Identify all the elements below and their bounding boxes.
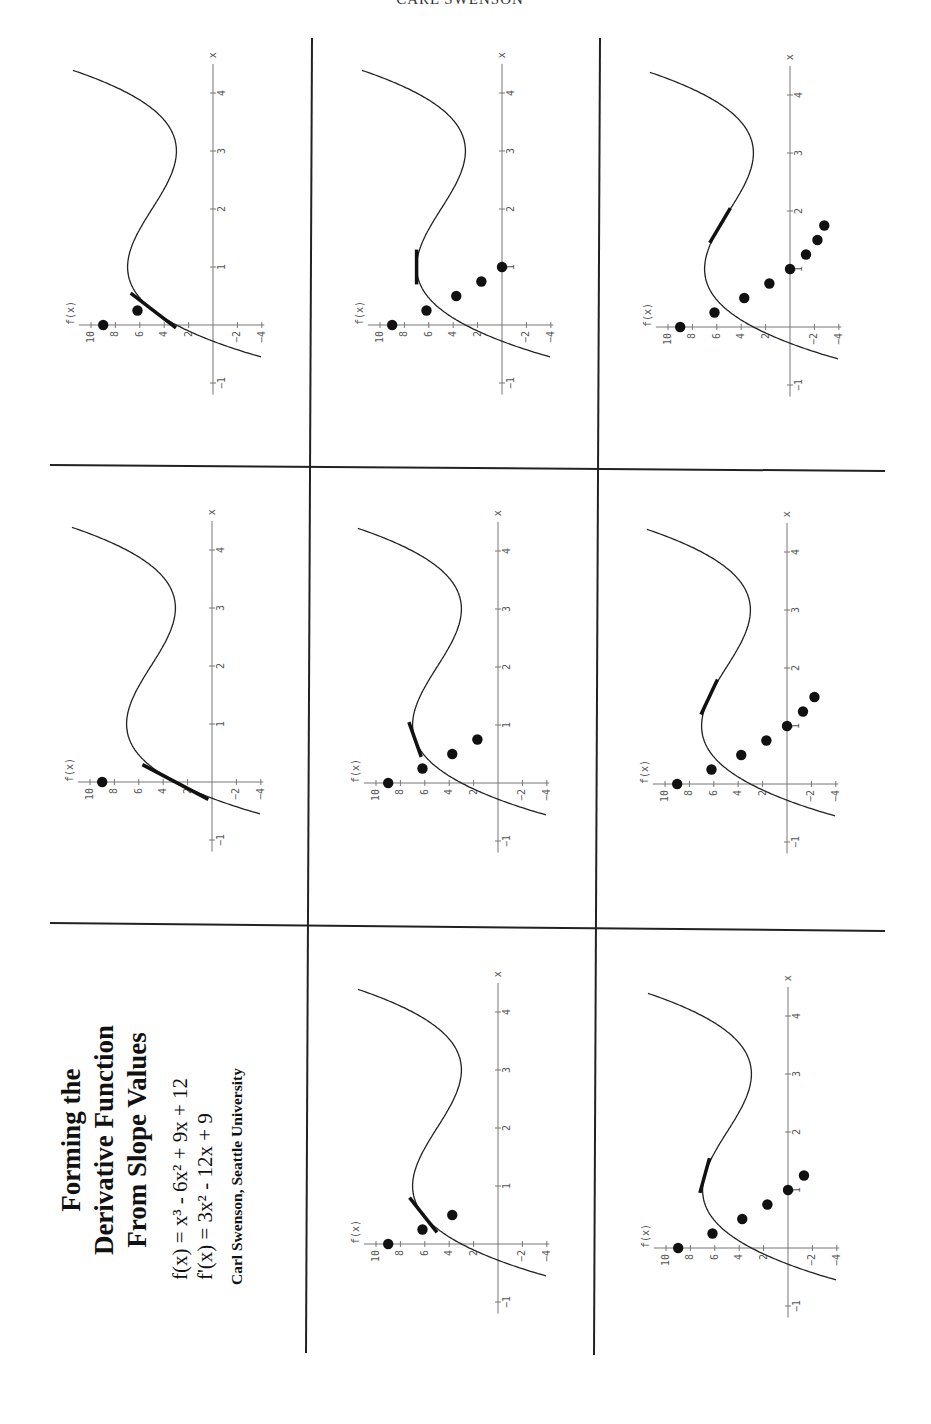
svg-text:−2: −2 [806,1254,817,1266]
svg-text:8: 8 [686,333,697,339]
svg-text:−2: −2 [516,1250,527,1262]
svg-text:4: 4 [443,1250,454,1256]
tick-labels: −11234108642−2−4xf(x) [639,511,840,848]
slope-dots [387,262,507,330]
svg-text:8: 8 [684,1254,695,1260]
slope-dot [785,264,795,274]
svg-text:−2: −2 [520,331,531,343]
slope-dot [801,249,811,259]
slope-dot [709,307,719,317]
y-axis-label: f(x) [350,759,361,783]
svg-text:1: 1 [215,721,226,727]
slope-dot [737,1214,747,1224]
svg-text:4: 4 [791,1013,802,1019]
slope-dot [383,1239,393,1249]
axes [364,522,549,853]
slope-dot [809,692,819,702]
svg-text:6: 6 [711,333,722,339]
svg-text:3: 3 [505,148,516,154]
svg-text:3: 3 [216,148,227,154]
svg-text:2: 2 [501,664,512,670]
page: CARL SWENSON −11234108642−2−4xf(x)−11234… [0,0,931,1424]
plot-panel-step-8: −11234108642−2−4xf(x) [642,54,843,396]
svg-text:4: 4 [732,790,743,796]
svg-text:−1: −1 [216,377,227,389]
svg-text:4: 4 [501,1009,512,1015]
svg-text:−2: −2 [230,788,241,800]
tangent-segment [409,722,421,757]
slope-dot [799,1170,809,1180]
plot-panel-step-3: −11234108642−2−4xf(x) [350,971,551,1313]
slope-dot [447,1210,457,1220]
svg-text:10: 10 [370,1250,381,1262]
svg-text:−4: −4 [831,1254,842,1266]
svg-text:4: 4 [501,548,512,554]
svg-text:8: 8 [394,789,405,795]
svg-text:10: 10 [85,331,96,343]
svg-text:8: 8 [108,788,119,794]
y-axis-label: f(x) [65,301,76,325]
svg-text:4: 4 [215,547,226,553]
svg-text:−1: −1 [215,834,226,846]
tangent-segment [701,680,717,715]
plot-panel-step-5: −11234108642−2−4xf(x) [354,52,555,394]
plot-panel-step-6: −11234108642−2−4xf(x) [640,975,841,1317]
slope-dot [706,764,716,774]
plot-panel-step-1: −11234108642−2−4xf(x) [64,509,265,851]
slope-dot [761,735,771,745]
svg-text:6: 6 [708,790,719,796]
slope-dot [782,721,792,731]
svg-text:10: 10 [660,1254,671,1266]
svg-text:−1: −1 [501,835,512,847]
y-axis-label: f(x) [639,760,650,784]
slope-dot [739,293,749,303]
function-curve [72,527,260,814]
title-block: Forming the Derivative Function From Slo… [55,905,305,1375]
slope-dots [98,305,143,330]
svg-text:8: 8 [683,790,694,796]
slope-dots [383,1210,457,1249]
fprime-equation: f'(x) = 3x² - 12x + 9 [193,905,218,1375]
slope-dot [421,305,431,315]
title-line-2: Derivative Function [88,905,121,1375]
svg-text:8: 8 [398,331,409,337]
function-curve [362,70,550,357]
svg-text:3: 3 [501,606,512,612]
x-axis-label: x [492,510,503,516]
svg-text:−1: −1 [793,379,804,391]
slope-dot [762,1199,772,1209]
svg-text:4: 4 [443,789,454,795]
y-axis-label: f(x) [354,301,365,325]
function-curve [647,529,835,816]
x-axis-label: x [206,509,217,515]
svg-text:2: 2 [216,206,227,212]
svg-text:3: 3 [791,1071,802,1077]
f-equation: f(x) = x³ - 6x² + 9x + 12 [168,905,193,1375]
svg-text:2: 2 [790,665,801,671]
slope-dot [451,291,461,301]
svg-text:−4: −4 [830,790,841,802]
tick-labels: −11234108642−2−4xf(x) [65,52,266,389]
svg-text:10: 10 [662,333,673,345]
y-axis-label: f(x) [64,758,75,782]
function-curve [650,72,838,359]
slope-dot [764,278,774,288]
slope-dot [97,777,107,787]
svg-text:10: 10 [374,331,385,343]
svg-text:−2: −2 [516,789,527,801]
plot-panel-step-4: −11234108642−2−4xf(x) [350,510,551,852]
slope-dot [497,262,507,272]
slope-dot [383,778,393,788]
svg-text:4: 4 [216,90,227,96]
slope-dots [675,220,829,332]
function-curve [358,528,546,815]
slope-dot [673,1243,683,1253]
slope-dot [707,1228,717,1238]
svg-text:−4: −4 [256,331,267,343]
slope-dot [798,706,808,716]
tick-labels: −11234108642−2−4xf(x) [354,52,555,389]
slope-dot [675,322,685,332]
svg-text:6: 6 [709,1254,720,1260]
svg-text:4: 4 [157,788,168,794]
tick-labels: −11234108642−2−4xf(x) [350,971,551,1308]
